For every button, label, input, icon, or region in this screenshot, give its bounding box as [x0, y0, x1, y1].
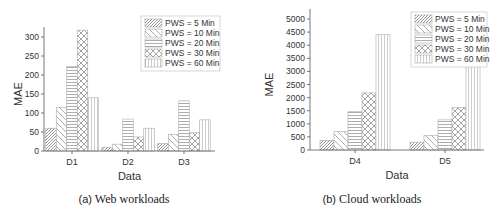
bar-D3-3: [189, 133, 200, 151]
legend-label: PWS = 10 Min: [165, 28, 220, 38]
x-tick-label: D4: [349, 156, 361, 166]
legend-label: PWS = 10 Min: [435, 24, 490, 34]
legend-swatch: [415, 45, 432, 53]
bar-D5-0: [410, 142, 424, 150]
legend-swatch: [145, 59, 162, 67]
x-tick-label: D2: [122, 157, 134, 167]
bar-D3-0: [158, 143, 169, 151]
cloud-workloads-chart: D4D5050010001500200025003000350040004500…: [248, 0, 496, 214]
bar-D5-1: [424, 135, 438, 150]
legend-swatch: [145, 19, 162, 27]
legend-label: PWS = 60 Min: [435, 54, 490, 64]
caption-b: (b) Cloud workloads: [248, 192, 496, 207]
legend-label: PWS = 20 Min: [435, 34, 490, 44]
bar-D4-2: [348, 112, 362, 150]
bar-D5-3: [452, 108, 466, 150]
legend-swatch: [415, 15, 432, 23]
y-tick-label: 2500: [286, 80, 305, 90]
bar-D1-3: [77, 30, 88, 151]
x-axis-label: Data: [118, 170, 142, 182]
legend-label: PWS = 5 Min: [165, 18, 215, 28]
y-axis-label: MAE: [263, 73, 275, 97]
y-tick-label: 3000: [286, 66, 305, 76]
bar-D1-0: [46, 128, 57, 151]
x-axis-label: Data: [385, 169, 409, 181]
bar-D1-2: [67, 67, 78, 151]
x-tick-label: D1: [66, 157, 78, 167]
legend-swatch: [415, 55, 432, 63]
legend-label: PWS = 30 Min: [435, 44, 490, 54]
y-tick-label: 500: [291, 132, 305, 142]
bar-D4-1: [334, 132, 348, 150]
y-tick-label: 3500: [286, 53, 305, 63]
legend-label: PWS = 5 Min: [435, 14, 485, 24]
legend-label: PWS = 60 Min: [165, 58, 220, 68]
legend-swatch: [145, 39, 162, 47]
y-tick-label: 150: [25, 89, 39, 99]
y-tick-label: 0: [300, 145, 305, 155]
bar-D5-4: [466, 64, 480, 150]
y-tick-label: 100: [25, 108, 39, 118]
bar-D4-0: [320, 140, 334, 150]
bar-D5-2: [438, 120, 452, 150]
bar-D2-3: [133, 137, 144, 151]
bar-D2-2: [123, 119, 134, 151]
y-tick-label: 1500: [286, 106, 305, 116]
y-tick-label: 4500: [286, 27, 305, 37]
bar-D1-4: [88, 98, 99, 151]
y-tick-label: 5000: [286, 14, 305, 24]
bar-D3-2: [179, 101, 190, 151]
legend: PWS = 5 MinPWS = 10 MinPWS = 20 MinPWS =…: [411, 12, 490, 67]
cloud-workloads-panel: D4D5050010001500200025003000350040004500…: [248, 0, 496, 214]
web-workloads-panel: D1D2D3050100150200250300DataMAEPWS = 5 M…: [0, 0, 248, 214]
bar-D2-0: [102, 147, 113, 151]
y-tick-label: 1000: [286, 119, 305, 129]
y-tick-label: 300: [25, 32, 39, 42]
y-tick-label: 50: [30, 127, 40, 137]
y-axis-label: MAE: [12, 82, 24, 106]
bar-D4-4: [376, 35, 390, 150]
legend-swatch: [415, 35, 432, 43]
y-tick-label: 200: [25, 70, 39, 80]
caption-b-text: Cloud workloads: [339, 192, 421, 206]
legend-swatch: [145, 29, 162, 37]
y-tick-label: 2000: [286, 93, 305, 103]
caption-a-text: Web workloads: [95, 192, 170, 206]
bar-D2-4: [144, 128, 155, 151]
x-tick-label: D5: [439, 156, 451, 166]
y-tick-label: 4000: [286, 40, 305, 50]
bar-D1-1: [56, 107, 67, 151]
legend-label: PWS = 20 Min: [165, 38, 220, 48]
caption-a-label: (a): [79, 193, 92, 205]
bar-D3-4: [200, 120, 211, 151]
bar-D3-1: [168, 134, 179, 151]
web-workloads-chart: D1D2D3050100150200250300DataMAEPWS = 5 M…: [0, 0, 248, 214]
y-tick-label: 250: [25, 51, 39, 61]
caption-a: (a) Web workloads: [0, 192, 248, 207]
legend-swatch: [145, 49, 162, 57]
legend: PWS = 5 MinPWS = 10 MinPWS = 20 MinPWS =…: [141, 16, 220, 71]
x-tick-label: D3: [178, 157, 190, 167]
legend-swatch: [415, 25, 432, 33]
caption-b-label: (b): [323, 193, 336, 205]
y-tick-label: 0: [34, 146, 39, 156]
legend-label: PWS = 30 Min: [165, 48, 220, 58]
bar-D4-3: [362, 93, 376, 150]
bar-D2-1: [112, 144, 123, 151]
